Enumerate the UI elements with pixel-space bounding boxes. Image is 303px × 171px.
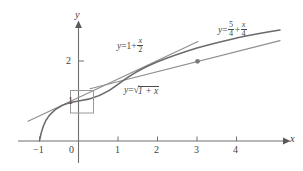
curve-equation-label: y=√1 + x bbox=[124, 85, 159, 96]
x-tick-label-2: 2 bbox=[154, 145, 159, 155]
secant-eq-equals: = bbox=[222, 25, 227, 35]
tangent-equation-label: y=1+ x 2 bbox=[117, 37, 144, 55]
x-tick-label-1: 1 bbox=[115, 145, 120, 155]
secant-eq-fraction-five-fourths: 5 4 bbox=[228, 21, 234, 39]
x-tick-label--1: −1 bbox=[33, 145, 44, 155]
y-axis-arrowhead bbox=[75, 21, 82, 29]
y-tick-label-1: 1 bbox=[68, 96, 73, 106]
tangent-eq-numerator: x bbox=[137, 37, 143, 45]
secant-eq-numerator-1: 5 bbox=[228, 21, 234, 29]
marked-point-3-2 bbox=[195, 59, 200, 64]
curve-eq-radical: √1 + x bbox=[134, 85, 160, 96]
y-axis bbox=[75, 21, 82, 164]
curve-sqrt-1-plus-x bbox=[40, 30, 281, 141]
tangent-eq-denominator: 2 bbox=[137, 45, 143, 54]
y-tick-label-2: 2 bbox=[66, 56, 71, 66]
tangent-eq-fraction: x 2 bbox=[137, 37, 143, 55]
x-tick-marks bbox=[40, 137, 237, 142]
secant-eq-denominator-1: 4 bbox=[228, 29, 234, 38]
secant-equation-label: y= 5 4 + x 4 bbox=[218, 21, 247, 39]
graph-figure: −1 0 1 2 3 4 1 2 x y y=1+ x 2 y= 5 4 + x… bbox=[0, 0, 303, 171]
y-axis-label: y bbox=[75, 10, 80, 21]
secant-eq-numerator-2: x bbox=[241, 21, 247, 29]
x-axis-label: x bbox=[290, 134, 295, 145]
secant-eq-plus: + bbox=[235, 25, 240, 35]
tangent-line-1-plus-x-2 bbox=[28, 42, 198, 122]
x-tick-label-3: 3 bbox=[194, 145, 199, 155]
curve-eq-radicand: 1 + x bbox=[138, 86, 159, 97]
tangent-eq-plus: + bbox=[131, 41, 136, 51]
secant-eq-denominator-2: 4 bbox=[241, 29, 247, 38]
x-tick-label-4: 4 bbox=[233, 145, 238, 155]
x-tick-label-0: 0 bbox=[69, 145, 74, 155]
secant-eq-fraction-x-fourths: x 4 bbox=[241, 21, 247, 39]
